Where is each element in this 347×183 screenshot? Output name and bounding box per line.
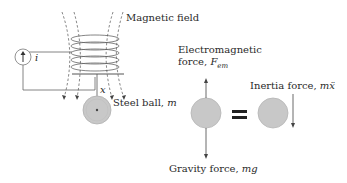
gravity-force-label: Gravity force, mg: [169, 163, 258, 175]
current-label: i: [35, 52, 38, 64]
magnetic-field-label: Magnetic field: [126, 12, 199, 24]
steel-ball-inertia: [258, 98, 288, 128]
equals-sign: [232, 110, 247, 119]
coil-icon: [71, 35, 124, 74]
em-force-label: Electromagnetic force, Fem: [178, 44, 262, 72]
inertia-force-label: Inertia force, mẍ: [250, 80, 335, 92]
current-source-icon: [15, 49, 31, 65]
displacement-label: x: [100, 84, 106, 96]
circuit-wire: [23, 50, 95, 90]
steel-ball-label: Steel ball, m: [113, 97, 177, 109]
steel-ball-fbd: [191, 98, 221, 128]
